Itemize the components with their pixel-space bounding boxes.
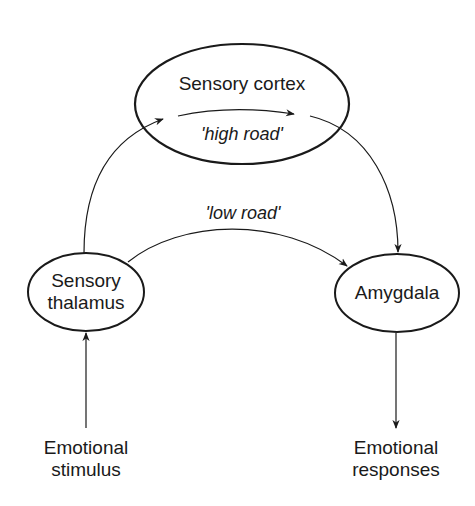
thalamus-line1: Sensory <box>26 270 146 292</box>
stimulus-line1: Emotional <box>16 437 156 459</box>
high-road-arrow-mid <box>178 110 294 116</box>
low-road-arrow <box>128 229 347 266</box>
emotional-responses-label: Emotional responses <box>326 437 466 481</box>
responses-line1: Emotional <box>326 437 466 459</box>
high-road-label: 'high road' <box>142 123 342 145</box>
sensory-thalamus-label: Sensory thalamus <box>26 270 146 314</box>
sensory-cortex-node <box>135 44 349 164</box>
diagram-canvas: Sensory cortex 'high road' 'low road' Se… <box>0 0 475 506</box>
amygdala-label: Amygdala <box>337 282 457 304</box>
thalamus-line2: thalamus <box>26 292 146 314</box>
low-road-label: 'low road' <box>143 202 343 224</box>
sensory-cortex-label: Sensory cortex <box>142 73 342 95</box>
responses-line2: responses <box>326 459 466 481</box>
emotional-stimulus-label: Emotional stimulus <box>16 437 156 481</box>
stimulus-line2: stimulus <box>16 459 156 481</box>
